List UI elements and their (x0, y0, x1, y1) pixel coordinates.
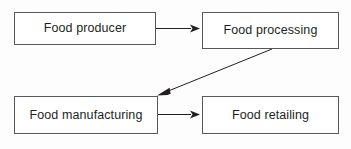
edge-producer-to-processing (156, 25, 200, 33)
node-label: Food processing (224, 24, 318, 37)
node-food-retailing[interactable]: Food retailing (202, 96, 339, 134)
node-label: Food producer (44, 22, 127, 35)
edge-manufacturing-to-retailing (158, 111, 200, 119)
node-label: Food retailing (232, 109, 309, 122)
edge-processing-to-manufacturing (157, 49, 272, 96)
node-label: Food manufacturing (30, 109, 143, 122)
flow-diagram: Food producer Food processing Food manuf… (0, 0, 351, 149)
node-food-manufacturing[interactable]: Food manufacturing (14, 96, 158, 134)
node-food-processing[interactable]: Food processing (202, 12, 339, 49)
node-food-producer[interactable]: Food producer (14, 12, 156, 45)
